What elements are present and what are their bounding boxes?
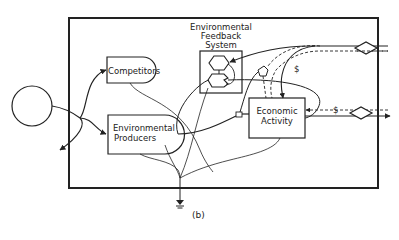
- environmental-producers-label-line2: Producers: [114, 133, 156, 143]
- producers-to-economy-flow: [178, 116, 236, 134]
- money-label-upper: $: [294, 64, 299, 74]
- heat-sink-icon: [176, 200, 184, 208]
- control-valve-icon: [258, 66, 268, 76]
- flow-to-competitors: [80, 70, 106, 118]
- energy-source-circle: [12, 86, 52, 126]
- figure-caption: (b): [192, 210, 205, 220]
- bottom-exchange-diamond: [350, 107, 372, 119]
- competitors-label: Competitors: [108, 66, 160, 76]
- feedback-hexagon-icon: [209, 56, 229, 70]
- feedback-interaction-icon: [208, 74, 228, 87]
- drain-economy: [180, 138, 280, 178]
- small-interaction-icon: [236, 112, 242, 117]
- economic-activity-label-line1: Economic: [249, 106, 305, 116]
- feedback-system-label-line3: System: [183, 40, 259, 50]
- environmental-producers-label-line1: Environmental: [113, 123, 175, 133]
- top-money-flow: [271, 51, 388, 98]
- drain-producers: [140, 154, 180, 178]
- source-flow-line: [52, 106, 80, 118]
- flow-to-producers: [80, 118, 106, 134]
- valve-dashed-line: [263, 76, 266, 98]
- economic-activity-label-line2: Activity: [249, 116, 305, 126]
- source-exit-arrow: [60, 118, 82, 150]
- top-exchange-diamond: [355, 42, 377, 54]
- money-label-lower: $: [333, 105, 338, 115]
